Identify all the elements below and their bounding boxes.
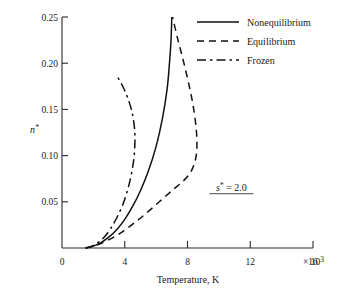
x-tick-label: 12 <box>246 257 256 267</box>
chart-legend: NonequilibriumEquilibriumFrozen <box>197 17 311 66</box>
x-axis-title: Temperature, K <box>157 274 220 285</box>
x-tick-label: 0 <box>60 257 65 267</box>
chart-figure: 0.050.100.150.200.25 n* 0481216 × 103 Te… <box>0 0 355 293</box>
curve-equilibrium <box>86 17 197 248</box>
y-axis-title: n* <box>30 123 39 135</box>
annotation-label: s* = 2.0 <box>216 181 247 193</box>
legend-label: Equilibrium <box>247 36 296 47</box>
y-tick-label: 0.20 <box>41 59 58 69</box>
y-tick-label: 0.15 <box>41 105 58 115</box>
curve-frozen <box>86 77 135 248</box>
chart-svg: 0.050.100.150.200.25 n* 0481216 × 103 Te… <box>0 0 355 293</box>
curve-group <box>86 17 197 248</box>
legend-label: Nonequilibrium <box>247 17 311 28</box>
y-tick-label: 0.05 <box>41 197 58 207</box>
x-ticklabel-group: 0481216 <box>60 257 318 267</box>
x-axis-exponent-label: × 103 <box>303 255 324 267</box>
y-ticklabel-group: 0.050.100.150.200.25 <box>41 13 58 208</box>
x-tick-label: 8 <box>185 257 190 267</box>
x-tick-group <box>125 241 313 248</box>
y-tick-group <box>62 17 68 202</box>
curve-nonequilibrium <box>86 17 172 248</box>
y-tick-label: 0.10 <box>41 151 58 161</box>
x-tick-label: 4 <box>122 257 127 267</box>
legend-label: Frozen <box>247 55 275 66</box>
y-axis: 0.050.100.150.200.25 n* <box>30 13 68 249</box>
x-axis: 0481216 × 103 Temperature, K <box>60 241 325 285</box>
annotation-group: s* = 2.0 <box>209 181 253 194</box>
y-tick-label: 0.25 <box>41 13 58 23</box>
